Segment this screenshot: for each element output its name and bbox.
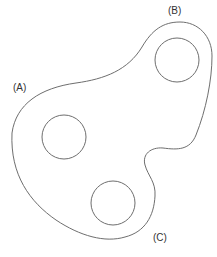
hole-middle-left [42, 115, 86, 159]
part-outline [12, 22, 212, 239]
part-drawing [0, 0, 217, 257]
label-c: (C) [153, 233, 167, 243]
hole-upper-right [155, 38, 199, 82]
hole-bottom [91, 181, 135, 225]
diagram-canvas: (A) (B) (C) [0, 0, 217, 257]
label-a: (A) [13, 83, 26, 93]
label-b: (B) [168, 6, 181, 16]
